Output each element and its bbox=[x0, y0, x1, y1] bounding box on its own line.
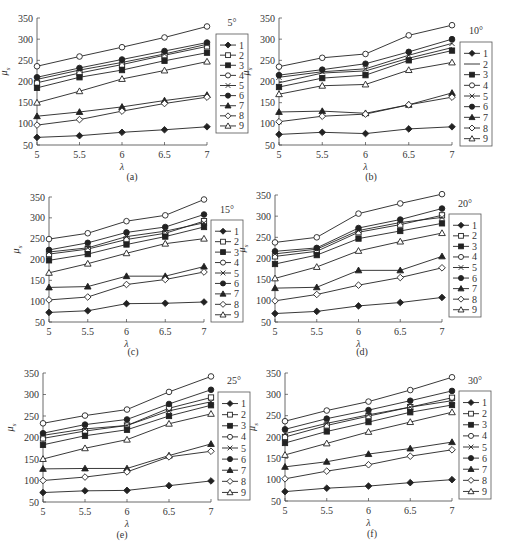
diamond-open-marker-icon bbox=[84, 294, 91, 301]
circle-filled-marker-icon bbox=[201, 212, 207, 218]
circle-open-marker-icon bbox=[208, 374, 214, 380]
y-tick-label: 50 bbox=[35, 317, 45, 328]
square-open-marker-icon bbox=[228, 412, 233, 417]
circle-filled-marker-icon bbox=[282, 427, 288, 433]
diamond-filled-marker-icon bbox=[34, 134, 41, 141]
triangle-open-marker-icon bbox=[201, 235, 208, 241]
diamond-open-marker-icon bbox=[123, 281, 130, 288]
square-filled-marker-icon bbox=[226, 63, 231, 68]
legend-label: 9 bbox=[482, 486, 487, 497]
y-tick-label: 300 bbox=[30, 212, 45, 223]
y-tick-label: 300 bbox=[18, 34, 33, 45]
legend-label: 3 bbox=[483, 69, 488, 80]
y-tick-label: 150 bbox=[260, 97, 275, 108]
diamond-filled-marker-icon bbox=[313, 308, 320, 315]
diamond-filled-marker-icon bbox=[119, 129, 126, 136]
y-tick-label: 200 bbox=[24, 432, 39, 443]
circle-filled-marker-icon bbox=[124, 230, 130, 236]
x-tick-label: 5.5 bbox=[316, 149, 329, 160]
circle-filled-marker-icon bbox=[124, 417, 130, 423]
diamond-open-marker-icon bbox=[362, 111, 369, 118]
panel-caption: (f) bbox=[367, 528, 377, 540]
square-open-marker-icon bbox=[221, 239, 226, 244]
triangle-open-marker-icon bbox=[449, 409, 456, 415]
y-tick-label: 250 bbox=[266, 410, 281, 421]
square-filled-marker-icon bbox=[82, 433, 87, 438]
y-tick-label: 100 bbox=[24, 475, 39, 486]
triangle-filled-marker-icon bbox=[439, 253, 446, 259]
x-tick-label: 6.5 bbox=[159, 326, 172, 337]
y-tick-label: 200 bbox=[30, 254, 45, 265]
legend-label: 7 bbox=[482, 464, 487, 475]
x-tick-label: 7 bbox=[205, 149, 210, 160]
legend-label: 6 bbox=[482, 453, 487, 464]
circle-filled-marker-icon bbox=[406, 49, 412, 55]
circle-open-marker-icon bbox=[82, 413, 88, 419]
square-open-marker-icon bbox=[124, 237, 129, 242]
circle-filled-marker-icon bbox=[363, 61, 369, 67]
legend-label: 7 bbox=[483, 112, 488, 123]
diamond-filled-marker-icon bbox=[82, 488, 89, 495]
y-tick-label: 300 bbox=[266, 389, 281, 400]
circle-open-marker-icon bbox=[406, 33, 412, 39]
diamond-open-marker-icon bbox=[282, 476, 289, 483]
diamond-open-marker-icon bbox=[46, 297, 53, 304]
legend-label: 8 bbox=[234, 299, 239, 310]
circle-filled-marker-icon bbox=[397, 217, 403, 223]
legend-label: 2 bbox=[472, 230, 477, 241]
circle-open-marker-icon bbox=[166, 389, 172, 395]
circle-filled-marker-icon bbox=[162, 224, 168, 230]
circle-open-marker-icon bbox=[276, 64, 282, 70]
circle-open-marker-icon bbox=[34, 63, 40, 69]
x-tick-label: 5.5 bbox=[311, 326, 324, 337]
square-open-marker-icon bbox=[449, 395, 454, 400]
circle-open-marker-icon bbox=[124, 218, 130, 224]
legend-label: 6 bbox=[472, 273, 477, 284]
legend-label: 5 bbox=[472, 262, 477, 273]
x-tick-label: 5.5 bbox=[73, 149, 86, 160]
x-tick-label: 7 bbox=[202, 326, 207, 337]
y-tick-label: 150 bbox=[30, 275, 45, 286]
circle-filled-marker-icon bbox=[324, 416, 330, 422]
square-filled-marker-icon bbox=[204, 50, 209, 55]
diamond-open-marker-icon bbox=[323, 468, 330, 475]
angle-label: 30° bbox=[468, 375, 482, 386]
figure-canvas: 5010015020025030035055.566.57λμs12345678… bbox=[0, 0, 506, 549]
diamond-filled-marker-icon bbox=[201, 299, 208, 306]
y-tick-label: 150 bbox=[18, 97, 33, 108]
x-tick-label: 5 bbox=[35, 149, 40, 160]
x-tick-label: 6 bbox=[125, 506, 130, 517]
y-tick-label: 350 bbox=[24, 368, 39, 379]
circle-filled-marker-icon bbox=[34, 74, 40, 80]
diamond-open-marker-icon bbox=[272, 298, 279, 305]
circle-filled-marker-icon bbox=[162, 48, 168, 54]
legend-label: 6 bbox=[234, 278, 239, 289]
legend-label: 1 bbox=[483, 48, 488, 59]
circle-open-marker-icon bbox=[439, 191, 445, 197]
square-filled-marker-icon bbox=[449, 48, 454, 53]
chart-panel-b: 5010015020025030035055.566.57λμs12345678… bbox=[240, 13, 492, 184]
diamond-filled-marker-icon bbox=[162, 300, 169, 307]
legend-label: 8 bbox=[472, 294, 477, 305]
circle-open-marker-icon bbox=[324, 408, 330, 414]
triangle-open-marker-icon bbox=[449, 59, 456, 65]
triangle-filled-marker-icon bbox=[449, 439, 456, 445]
circle-filled-marker-icon bbox=[468, 456, 473, 461]
diamond-filled-marker-icon bbox=[407, 479, 414, 486]
x-tick-label: 6.5 bbox=[394, 326, 407, 337]
legend-label: 4 bbox=[482, 430, 487, 441]
x-tick-label: 5 bbox=[283, 505, 288, 516]
diamond-open-marker-icon bbox=[365, 461, 372, 468]
diamond-filled-marker-icon bbox=[276, 131, 283, 138]
x-tick-label: 7 bbox=[450, 505, 455, 516]
triangle-open-marker-icon bbox=[208, 411, 215, 417]
y-tick-label: 50 bbox=[23, 140, 33, 151]
diamond-filled-marker-icon bbox=[397, 299, 404, 306]
angle-label: 15° bbox=[220, 204, 234, 215]
y-tick-label: 50 bbox=[271, 496, 281, 507]
y-axis-label: μs bbox=[10, 245, 24, 254]
angle-label: 25° bbox=[227, 375, 241, 386]
diamond-filled-marker-icon bbox=[161, 126, 168, 133]
chart-panel-e: 5010015020025030035055.566.57λμs12345678… bbox=[4, 368, 250, 542]
x-tick-label: 7 bbox=[450, 149, 455, 160]
